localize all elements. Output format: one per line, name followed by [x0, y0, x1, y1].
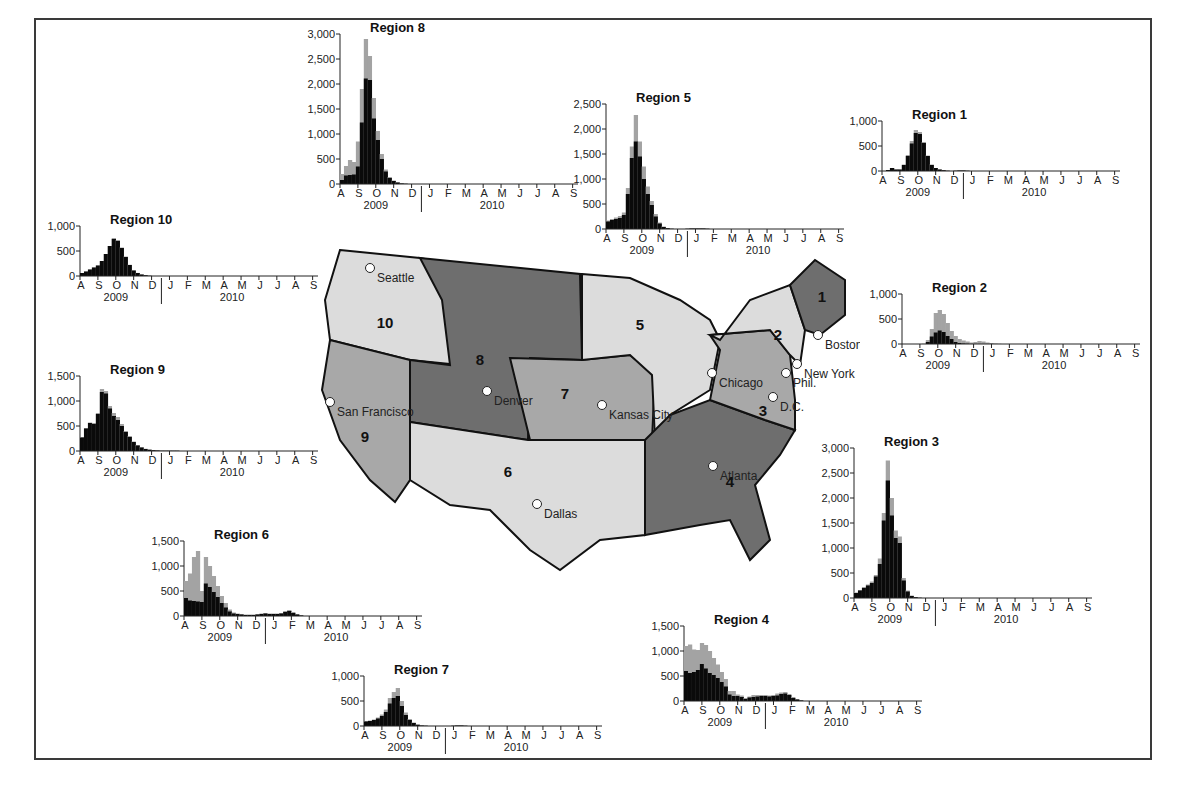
bar-black	[124, 432, 128, 451]
x-month-label: M	[1059, 347, 1068, 359]
bar-black	[356, 167, 360, 185]
city-marker	[598, 401, 607, 410]
bar-black	[910, 144, 914, 172]
chart-title: Region 5	[636, 90, 691, 105]
bar-black	[692, 672, 696, 701]
x-month-label: M	[462, 187, 471, 199]
x-month-label: A	[396, 619, 404, 631]
bar-black	[380, 159, 384, 184]
x-month-label: A	[1114, 347, 1122, 359]
x-month-label: M	[497, 187, 506, 199]
bar-black	[740, 697, 744, 701]
city-label: San Francisco	[337, 405, 414, 419]
x-year-label: 2010	[994, 613, 1018, 625]
y-tick-label: 0	[891, 338, 897, 350]
x-year-label: 2010	[504, 741, 528, 753]
chart-title: Region 4	[714, 612, 770, 627]
x-month-label: M	[306, 619, 315, 631]
bar-black	[854, 593, 858, 598]
bar-black	[720, 682, 724, 701]
bar-black	[140, 448, 144, 452]
bar-black	[364, 722, 368, 727]
bar-black	[112, 239, 116, 276]
y-tick-label: 1,500	[307, 103, 335, 115]
x-month-label: N	[953, 347, 961, 359]
x-month-label: S	[414, 619, 421, 631]
x-month-label: A	[361, 729, 369, 741]
x-month-label: N	[131, 454, 139, 466]
bar-black	[866, 586, 870, 599]
chart-region-8: Region 805001,0001,5002,0002,5003,000ASO…	[300, 18, 588, 218]
city-marker	[533, 500, 542, 509]
bar-black	[787, 695, 791, 701]
bar-black	[220, 603, 224, 616]
region-6-area	[410, 422, 652, 570]
x-month-label: A	[181, 619, 189, 631]
bar-black	[950, 339, 954, 344]
x-month-label: O	[915, 174, 924, 186]
bar-black	[404, 715, 408, 726]
y-tick-label: 500	[341, 695, 359, 707]
chart-region-5: Region 505001,0001,5002,0002,500ASONDJFM…	[566, 88, 854, 263]
bar-black	[658, 224, 662, 230]
bar-black	[96, 414, 100, 451]
x-month-label: A	[504, 729, 512, 741]
bar-black	[216, 597, 220, 616]
x-month-label: N	[735, 704, 743, 716]
city-label: Chicago	[719, 376, 763, 390]
bar-black	[906, 592, 910, 599]
x-month-label: J	[1077, 174, 1083, 186]
x-month-label: M	[202, 279, 211, 291]
x-month-label: M	[237, 454, 246, 466]
city-marker	[708, 369, 717, 378]
y-tick-label: 0	[329, 178, 335, 190]
x-month-label: A	[292, 454, 300, 466]
x-month-label: J	[861, 704, 867, 716]
y-tick-label: 0	[871, 165, 877, 177]
bar-black	[783, 694, 787, 702]
x-month-label: S	[1084, 601, 1091, 613]
bar-black	[92, 268, 96, 277]
x-month-label: F	[987, 174, 994, 186]
chart-title: Region 10	[110, 212, 172, 227]
bar-black	[622, 215, 626, 229]
city-marker	[483, 387, 492, 396]
bar-black	[228, 612, 232, 617]
y-tick-label: 500	[57, 420, 75, 432]
bar-black	[862, 588, 866, 598]
bar-black	[606, 222, 610, 230]
x-year-label: 2009	[364, 199, 388, 211]
bar-black	[380, 716, 384, 726]
x-month-label: A	[1066, 601, 1074, 613]
map-svg: SeattleSan FranciscoDenverKansas CityDal…	[300, 240, 860, 580]
bar-black	[108, 409, 112, 452]
x-month-label: S	[355, 187, 362, 199]
bar-black	[728, 695, 732, 702]
x-month-label: O	[373, 187, 382, 199]
y-tick-label: 500	[859, 140, 877, 152]
x-month-label: A	[77, 454, 85, 466]
bar-black	[80, 438, 84, 452]
chart-region-9: Region 905001,0001,500ASONDJFMAMJJAS2009…	[40, 360, 328, 485]
bar-black	[642, 179, 646, 229]
y-tick-label: 500	[661, 670, 679, 682]
x-month-label: F	[959, 601, 966, 613]
city-label: Kansas City	[609, 408, 673, 422]
x-month-label: O	[113, 454, 122, 466]
city-label: Dallas	[544, 507, 577, 521]
x-year-label: 2009	[388, 741, 412, 753]
y-tick-label: 1,000	[307, 128, 335, 140]
bar-black	[732, 696, 736, 701]
bar-black	[84, 272, 88, 277]
x-month-label: J	[517, 187, 523, 199]
bar-black	[184, 598, 188, 616]
bar-black	[747, 698, 751, 702]
x-month-label: A	[824, 704, 832, 716]
y-tick-label: 1,500	[651, 620, 679, 632]
bar-black	[630, 158, 634, 229]
x-month-label: J	[541, 729, 547, 741]
x-year-label: 2009	[208, 631, 232, 643]
bar-black	[870, 583, 874, 598]
city-label: Seattle	[377, 271, 415, 285]
bar-black	[708, 673, 712, 701]
